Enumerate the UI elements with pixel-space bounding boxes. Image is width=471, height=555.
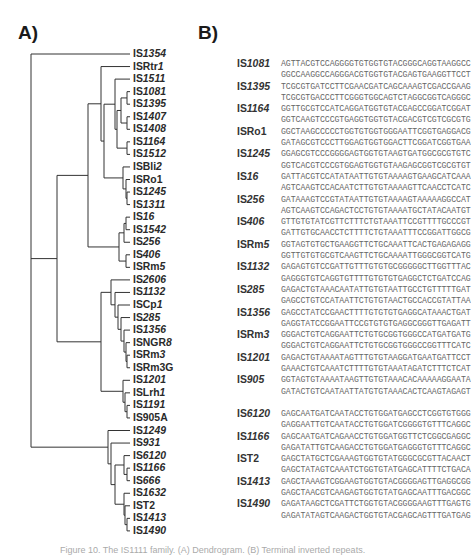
sequence-line: GATAGCGTCCCTTGGAGTGGTGGACTTCGGATCGGTGAA xyxy=(281,137,471,148)
sequence-line: GAGCAATGATCAATACCTGTGGATGAGCCTCGGTGTGGG xyxy=(281,408,471,419)
leaf-label: IS1511 xyxy=(133,73,165,85)
leaf-label: IS406 xyxy=(133,249,160,261)
leaf-label: IS2606 xyxy=(133,274,166,286)
leaf-label: IS256 xyxy=(133,236,160,248)
leaf-label: IST2 xyxy=(133,500,155,512)
leaf-label: IS285 xyxy=(133,312,160,324)
leaf-label: IS1632 xyxy=(133,487,166,499)
sequence-line: GATTACGTCCATATAATTGTGTAAAAGTGAAGCATCAAA xyxy=(281,171,471,182)
sequence-line: GTTGTGTATCGTTCTTTCTGTAAATTCCGTTTTGCCCGT xyxy=(281,216,471,227)
sequence-name: IS1081 xyxy=(237,58,270,70)
sequence-name: IS1164 xyxy=(237,103,269,115)
leaf-label: ISLrh1 xyxy=(133,387,165,399)
sequence-name: IS905 xyxy=(237,374,264,386)
sequence-name: ISRm5 xyxy=(237,239,269,251)
sequence-line: GGTAGTGTGCTGAAGGTTCTGCAAATTCACTGAGAGAGG xyxy=(281,239,471,250)
sequence-line: GGGACTGTCAGGAATTCTGTGCGGTGGGCCGGTTTCATC xyxy=(281,340,471,351)
leaf-label: ISRtr1 xyxy=(133,61,164,73)
leaf-label: IS1132 xyxy=(133,286,165,298)
sequence-line: AGTTACGTCCAGGGGTGTGGTGTACGGGCAGGTAAGGCC xyxy=(281,58,471,69)
sequence-line: GGAGCGTCCCGGGGAGTGGTGTAAGTGATGGCGCGTGTC xyxy=(281,148,471,159)
sequence-line: GAGCTAACGTCAAGAGTGGTGTATGAGCAATTTGACGGC xyxy=(281,487,471,498)
leaf-label: IS1201 xyxy=(133,374,166,386)
sequence-line: GGCTAAGCCCCCTGGTGTGGTGGGAATTCGGTGAGGACG xyxy=(281,126,471,137)
leaf-label: ISRm5 xyxy=(133,261,165,273)
leaf-label: IS1542 xyxy=(133,224,166,236)
sequence-name: IS406 xyxy=(237,216,264,228)
sequence-line: GATACTGTCAATAATTATGTGTAAACACTCAAGTAGAGT xyxy=(281,386,471,397)
leaf-label: ISBli2 xyxy=(133,161,162,173)
leaf-label: IS1249 xyxy=(133,425,166,437)
sequence-name: IS6120 xyxy=(237,408,270,420)
leaf-label: IS1395 xyxy=(133,98,166,110)
sequence-name: ISRo1 xyxy=(237,126,266,138)
sequence-line: GAGATATAGTCAAGACTGGTGTACGAGCAGTTTGATGAG xyxy=(281,510,471,521)
sequence-name: ISRm3 xyxy=(237,329,269,341)
sequence-line: GAGACTGTAAACAATATTGTGTAATTGCCTGTTTTTGAT xyxy=(281,284,471,295)
leaf-label: IS1245 xyxy=(133,186,166,198)
sequence-name: IST2 xyxy=(237,453,259,465)
leaf-label: IS1191 xyxy=(133,399,165,411)
sequence-line: TCGCGTGACCCTTCGGGTGGCAGTCTAGGCGGTCAGGGC xyxy=(281,92,471,103)
sequence-line: GAGGGTGTCAGGTGTTTTGTGTGTGAGGCTCTGATCCAG xyxy=(281,273,471,284)
leaf-label: IS6120 xyxy=(133,450,166,462)
sequence-name: IS1413 xyxy=(237,476,270,488)
sequence-name: IS285 xyxy=(237,284,264,296)
sequence-name: IS1245 xyxy=(237,148,270,160)
sequence-line: GATAAAGTCCGTATAATTGTGTAAAAGTAAAAAGGCCAT xyxy=(281,194,471,205)
sequence-line: GAGATATTGTCAAGACCTGTGGATGAGGGTGTTTCAGGC xyxy=(281,442,471,453)
sequence-line: GATTGTGCAACCTCTTTTCTGTAAATTTCCGGATTGGCG xyxy=(281,227,471,238)
leaf-label: IS1354 xyxy=(133,48,166,60)
sequence-line: TCGCGTGATCCTTCGAACGATCAGCAAAGTCGACCGAAG xyxy=(281,81,471,92)
sequence-line: GAGGTATCCGGAATTCCGTGTGTGAGGCGGGTTGAGATT xyxy=(281,318,471,329)
sequence-line: GGTAGTGTAAAATAAGTTGTGTAAACACAAAAAGGAATA xyxy=(281,374,471,385)
sequence-name: IS1356 xyxy=(237,307,270,319)
sequence-line: GAGCCTGTCCATAATTCTGTGTAACTGCCACCGTATTAA xyxy=(281,295,471,306)
leaf-label: IS905A xyxy=(133,412,168,424)
sequence-name: IS1132 xyxy=(237,261,269,273)
sequence-line: GAGCTATAGTCAAATCTGGTGTATGAGCATTTTCTGACA xyxy=(281,464,471,475)
leaf-label: ISRm3G xyxy=(133,362,173,374)
leaf-label: IS1356 xyxy=(133,324,166,336)
sequence-line: GAGCCTATCCGAACTTTTGTGTGTGAGGCATAAACTGAT xyxy=(281,307,471,318)
sequence-name: IS1395 xyxy=(237,81,270,93)
sequence-name: IS1490 xyxy=(237,498,270,510)
sequence-name: IS1201 xyxy=(237,352,270,364)
leaf-label: IS1490 xyxy=(133,525,166,537)
leaf-label: IS1311 xyxy=(133,199,165,211)
leaf-label: IS666 xyxy=(133,475,160,487)
leaf-label: IS931 xyxy=(133,437,160,449)
dendrogram xyxy=(0,0,240,555)
sequence-line: GGTTGTGTGCGTCAAGTTCTGCAAAATTGGGCGGTCATG xyxy=(281,250,471,261)
sequence-line: GAGCAATGATCAGAACCTGTGGATGGTTCTCGGCGAGGC xyxy=(281,431,471,442)
leaf-label: IS1407 xyxy=(133,111,166,123)
sequence-line: GGTTGCGTCCATCAGGATGGTGTACGAGCCGGATCGGAT xyxy=(281,103,471,114)
leaf-label: IS1413 xyxy=(133,512,166,524)
leaf-label: ISCp1 xyxy=(133,299,162,311)
sequence-name: IS16 xyxy=(237,171,258,183)
sequence-line: GAGCTATGCTCGAAAGTGGTGTATGGGCGCGTTACAACT xyxy=(281,453,471,464)
leaf-label: IS1408 xyxy=(133,123,166,135)
leaf-label: ISNGR8 xyxy=(133,337,172,349)
leaf-label: IS1164 xyxy=(133,136,165,148)
sequence-line: GAGACTGTAAAATAGTTTGTGTAAGGATGAATGATTCCT xyxy=(281,352,471,363)
leaf-label: IS1512 xyxy=(133,148,166,160)
sequence-line: GGCCAAGGCCAGGGACGTGGTGTACGAGTGAAGGTTCCT xyxy=(281,69,471,80)
leaf-label: IS1166 xyxy=(133,462,165,474)
sequence-line: GAAACTGTCAAATCTTTTGTGTAAATAGATCTTTCTCAT xyxy=(281,363,471,374)
sequence-line: GGGACTGTCAGGAATTCTGTGCGGTGGGCCATGATGATG xyxy=(281,329,471,340)
sequence-line: AGTCAAGTCCACAATCTTGTGTAAAAGTTCAACCTCATC xyxy=(281,182,471,193)
sequence-line: GAGCTAAAGTCGGAAGTGGTGTACGGGGAGTTGAGGCGG xyxy=(281,476,471,487)
sequence-line: AGTCAAGTCCAGACTCCTGTGTAAAATGCTATACAATGT xyxy=(281,205,471,216)
leaf-label: ISRo1 xyxy=(133,174,162,186)
leaf-label: ISRm3 xyxy=(133,349,165,361)
sequence-line: GGTCACGTCCCGTGGAGTGGTGTAAGAGCGGTCGCGTGT xyxy=(281,160,471,171)
leaf-label: IS16 xyxy=(133,211,154,223)
sequence-name: IS1166 xyxy=(237,431,269,443)
sequence-line: GAGATAAGCTCGATTCTGGTGTACGGGGAAGTTTGAGTG xyxy=(281,498,471,509)
figure-caption: Figure 10. The IS1111 family. (A) Dendro… xyxy=(60,545,365,555)
sequence-line: GGTCAAGTCCCGTGAGGTGGTGTACGACGTCGTCGCGTG xyxy=(281,114,471,125)
leaf-label: IS1081 xyxy=(133,86,166,98)
sequence-line: GAGGAATTGTCAATACCTGTGGATCGGGGTGTTTCAGGC xyxy=(281,419,471,430)
sequence-line: GAGAGTGTCCGATTGTTTGTGTGCGGGGGCTTGGTTTAC xyxy=(281,261,471,272)
